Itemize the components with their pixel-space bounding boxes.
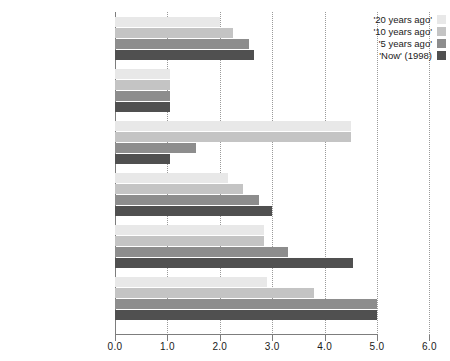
bar-group — [115, 173, 377, 216]
x-tick-label: 1.0 — [160, 341, 175, 352]
bar-chart: 0.01.02.03.04.05.06.0 Africa (20)Botswan… — [0, 0, 450, 361]
x-axis-line — [115, 334, 378, 335]
bar — [115, 184, 243, 194]
bar — [115, 277, 267, 287]
bar — [115, 39, 249, 49]
bar — [115, 247, 288, 257]
legend-label: '5 years ago' — [379, 38, 432, 49]
bar — [115, 195, 259, 205]
legend-swatch — [437, 51, 446, 60]
bar — [115, 17, 220, 27]
bar — [115, 258, 353, 268]
bar — [115, 299, 377, 309]
x-tick-label: 4.0 — [317, 341, 332, 352]
legend: '20 years ago''10 years ago''5 years ago… — [330, 14, 446, 62]
legend-swatch — [437, 15, 446, 24]
legend-swatch — [437, 27, 446, 36]
legend-label: '10 years ago' — [373, 26, 432, 37]
x-tick-label: 3.0 — [265, 341, 280, 352]
bar — [115, 143, 196, 153]
legend-swatch — [437, 39, 446, 48]
bar-group — [115, 277, 377, 320]
bar — [115, 154, 170, 164]
bar — [115, 80, 170, 90]
bar — [115, 28, 233, 38]
bar — [115, 50, 254, 60]
bar — [115, 206, 272, 216]
bar — [115, 310, 377, 320]
bar — [115, 69, 170, 79]
bar — [115, 173, 228, 183]
x-tick-label: 5.0 — [370, 341, 385, 352]
bar-group — [115, 225, 377, 268]
bar-group — [115, 69, 377, 112]
legend-label: '20 years ago' — [373, 14, 432, 25]
bar — [115, 121, 351, 131]
legend-item: 'Now' (1998) — [330, 50, 446, 61]
bar — [115, 91, 170, 101]
bar-group — [115, 121, 377, 164]
bar — [115, 132, 351, 142]
bar — [115, 102, 170, 112]
x-tick-label: 6.0 — [422, 341, 437, 352]
legend-item: '20 years ago' — [330, 14, 446, 25]
legend-item: '10 years ago' — [330, 26, 446, 37]
legend-item: '5 years ago' — [330, 38, 446, 49]
legend-label: 'Now' (1998) — [379, 50, 432, 61]
bar — [115, 236, 264, 246]
bar — [115, 225, 264, 235]
x-tick-label: 0.0 — [108, 341, 123, 352]
bar — [115, 288, 314, 298]
x-tick-label: 2.0 — [212, 341, 227, 352]
